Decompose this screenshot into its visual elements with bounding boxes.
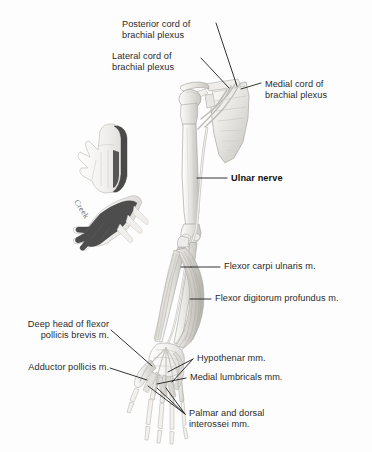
label-medial-cord: Medial cord of brachial plexus: [265, 79, 327, 102]
label-interossei: Palmar and dorsal interossei mm.: [189, 408, 264, 431]
label-flexor-digitorum-profundus: Flexor digitorum profundus m.: [215, 293, 339, 304]
label-hypothenar: Hypothenar mm.: [197, 353, 266, 364]
label-adductor-pollicis: Adductor pollicis m.: [9, 362, 109, 373]
anatomy-illustration: [0, 0, 372, 452]
label-deep-head-fpb: Deep head of flexor pollicis brevis m.: [9, 319, 109, 342]
label-medial-lumbricals: Medial lumbricals mm.: [190, 372, 282, 383]
label-lateral-cord: Lateral cord of brachial plexus: [112, 51, 174, 74]
label-ulnar-nerve: Ulnar nerve: [231, 173, 283, 184]
label-posterior-cord: Posterior cord of brachial plexus: [122, 19, 190, 42]
anatomy-figure: Posterior cord of brachial plexus Latera…: [0, 0, 372, 452]
label-flexor-carpi-ulnaris: Flexor carpi ulnaris m.: [224, 261, 316, 272]
